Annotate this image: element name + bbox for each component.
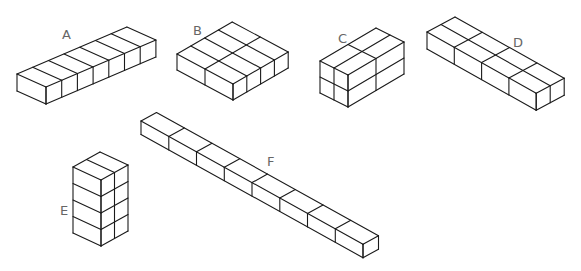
cube-shape-f [141,113,379,258]
cube-shape-c [320,28,404,107]
cube-shape-d [427,17,564,110]
cube-figures [0,0,581,271]
shape-label-e: E [60,204,68,217]
cube-shape-a [17,27,156,104]
shape-label-d: D [513,36,523,49]
diagram-canvas: A B C D E F [0,0,581,271]
shape-label-f: F [267,155,274,168]
shape-label-c: C [338,32,347,45]
shape-label-b: B [193,24,202,37]
shape-label-a: A [62,28,71,41]
cube-shape-e [73,152,128,246]
